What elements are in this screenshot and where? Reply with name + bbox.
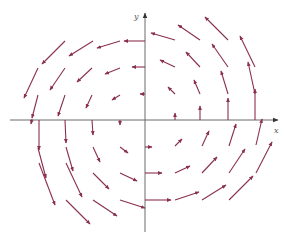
vector-arrow <box>69 41 93 56</box>
vector-arrow <box>65 120 66 143</box>
vector-arrow <box>256 142 272 173</box>
vector-arrow <box>120 147 128 153</box>
vector-arrow <box>202 157 217 173</box>
vector-arrow <box>77 68 92 82</box>
vector-arrow <box>97 41 120 48</box>
vector-arrow <box>93 200 117 216</box>
vector-arrow <box>256 119 262 145</box>
vector-arrow <box>66 200 90 224</box>
vector-arrow <box>93 147 100 162</box>
vector-arrow <box>240 36 255 67</box>
vector-arrow <box>151 33 175 40</box>
vector-arrow <box>32 95 38 118</box>
axes: y x <box>10 12 279 232</box>
vector-arrow <box>168 87 175 94</box>
vector-arrow <box>194 80 200 94</box>
vector-arrow <box>42 41 65 64</box>
vector-arrow <box>175 192 199 200</box>
vector-arrow <box>120 173 137 181</box>
vector-arrow <box>105 68 120 74</box>
vector-field-diagram: y x <box>0 0 290 238</box>
vector-arrow <box>178 25 200 40</box>
vector-arrow <box>175 166 190 173</box>
vector-arrow <box>212 44 228 67</box>
vector-arrow <box>120 200 145 208</box>
vector-arrow <box>58 95 65 116</box>
y-axis-label: y <box>133 12 139 21</box>
vector-arrow <box>202 131 209 146</box>
vector-arrow <box>39 163 55 205</box>
vector-arrow <box>66 147 73 171</box>
x-axis-label: x <box>274 126 279 135</box>
vector-arrow <box>229 124 236 146</box>
vector-arrow <box>229 149 245 173</box>
vector-arrow <box>229 176 253 200</box>
vector-arrow <box>50 68 65 90</box>
vector-arrow <box>248 62 255 94</box>
vector-arrow <box>93 173 109 189</box>
vector-arrow <box>160 60 175 67</box>
vector-arrow <box>66 163 82 197</box>
vector-arrow <box>92 120 93 135</box>
vector-arrow <box>221 71 228 94</box>
vector-arrow <box>24 68 38 98</box>
vector-arrow <box>112 95 120 100</box>
vector-arrow <box>205 17 228 40</box>
vector-field-plot: y x <box>0 0 290 238</box>
vector-arrow <box>86 95 92 108</box>
vector-arrow <box>186 52 200 67</box>
vector-arrow <box>202 185 226 200</box>
vector-arrow <box>175 139 182 146</box>
